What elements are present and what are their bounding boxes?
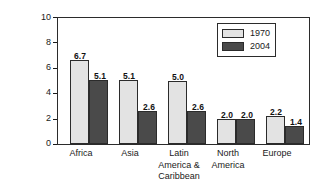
legend-swatch-2004 [222, 42, 244, 51]
y-tick-label-8: 8 [35, 38, 51, 47]
bar-value-1970-asia: 5.1 [117, 71, 141, 81]
y-tick-label-10: 10 [35, 13, 51, 22]
bar-2004-africa[interactable]: 5.1 [89, 80, 108, 144]
bar-value-1970-africa: 6.7 [68, 51, 92, 61]
x-category-label-europe: Europe [240, 148, 314, 160]
x-category-latin-line3: Caribbean [142, 171, 216, 183]
y-tick-label-4: 4 [35, 88, 51, 97]
bar-1970-europe[interactable]: 2.2 [266, 116, 285, 144]
fertility-rate-bar-chart: Total fertility rate (children per women… [0, 0, 328, 189]
legend-label-2004: 2004 [250, 42, 270, 51]
plot-area: 6.7 5.1 5.1 2.6 5.0 2.6 2.0 [57, 17, 310, 145]
legend-swatch-1970 [222, 29, 244, 38]
bar-value-1970-latin-america-caribbean: 5.0 [166, 72, 190, 82]
bar-value-2004-asia: 2.6 [137, 102, 161, 112]
bar-value-2004-europe: 1.4 [284, 117, 308, 127]
legend-item-2004[interactable]: 2004 [222, 40, 270, 53]
legend-label-1970: 1970 [250, 29, 270, 38]
chart-legend: 1970 2004 [217, 23, 276, 57]
bar-value-2004-latin-america-caribbean: 2.6 [186, 102, 210, 112]
y-tick-label-6: 6 [35, 63, 51, 72]
x-category-north-line2: America [191, 160, 265, 172]
bar-2004-europe[interactable]: 1.4 [285, 126, 304, 144]
bar-1970-africa[interactable]: 6.7 [70, 60, 89, 144]
bar-1970-latin-america-caribbean[interactable]: 5.0 [168, 81, 187, 144]
legend-item-1970[interactable]: 1970 [222, 27, 270, 40]
bar-value-2004-africa: 5.1 [88, 71, 112, 81]
y-tick-label-2: 2 [35, 114, 51, 123]
bar-value-2004-north-america: 2.0 [235, 110, 259, 120]
bar-2004-latin-america-caribbean[interactable]: 2.6 [187, 111, 206, 144]
bar-value-1970-europe: 2.2 [264, 107, 288, 117]
bar-1970-north-america[interactable]: 2.0 [217, 119, 236, 144]
bar-2004-asia[interactable]: 2.6 [138, 111, 157, 144]
bar-1970-asia[interactable]: 5.1 [119, 80, 138, 144]
bar-2004-north-america[interactable]: 2.0 [236, 119, 255, 144]
x-category-europe-line1: Europe [240, 148, 314, 160]
y-tick-label-0: 0 [35, 139, 51, 148]
